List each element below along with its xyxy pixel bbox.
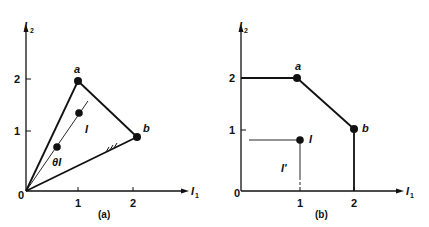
point-thetaI — [53, 143, 61, 151]
y-axis-sub: 2 — [30, 27, 34, 34]
label-a: a — [295, 60, 301, 72]
figure: a b I θI I 2 I 1 0 1 2 2 1 (a) a b I — [0, 0, 429, 227]
label-I: I — [309, 133, 313, 145]
label-thetaI: θI — [52, 156, 62, 168]
y-tick-label-1: 1 — [229, 124, 235, 136]
point-a — [74, 77, 82, 85]
label-a: a — [74, 63, 80, 75]
x-tick-label-1: 1 — [297, 197, 303, 209]
x-axis-arrow-icon — [396, 189, 404, 194]
point-b — [133, 133, 141, 141]
y-tick-label-1: 1 — [14, 125, 20, 137]
x-axis-arrow-icon — [181, 189, 189, 194]
y-axis-sub: 2 — [244, 27, 248, 34]
y-tick-label-2: 2 — [14, 73, 20, 85]
panel-b: a b I I' I 2 I 1 0 1 2 2 1 (b) — [229, 20, 414, 220]
x-tick-label-2: 2 — [351, 197, 357, 209]
x-axis-sub: 1 — [195, 192, 199, 199]
origin-label: 0 — [18, 189, 24, 201]
point-I — [296, 136, 304, 144]
panel-a: a b I θI I 2 I 1 0 1 2 2 1 (a) — [14, 20, 199, 220]
x-axis-sub: 1 — [410, 192, 414, 199]
caption-b: (b) — [315, 209, 328, 220]
label-I: I — [85, 123, 89, 135]
x-tick-label-2: 2 — [130, 197, 136, 209]
point-a — [293, 74, 301, 82]
edge-origin-b — [26, 137, 137, 191]
caption-a: (a) — [98, 209, 110, 220]
x-tick-label-1: 1 — [75, 197, 81, 209]
label-b: b — [143, 122, 150, 134]
label-b: b — [362, 122, 369, 134]
point-b — [350, 125, 358, 133]
edge-origin-a — [26, 81, 78, 191]
label-Iprime: I' — [281, 162, 287, 174]
origin-label: 0 — [234, 187, 240, 199]
y-tick-label-2: 2 — [229, 72, 235, 84]
point-I — [75, 109, 83, 117]
isoquant-boundary — [241, 78, 354, 191]
